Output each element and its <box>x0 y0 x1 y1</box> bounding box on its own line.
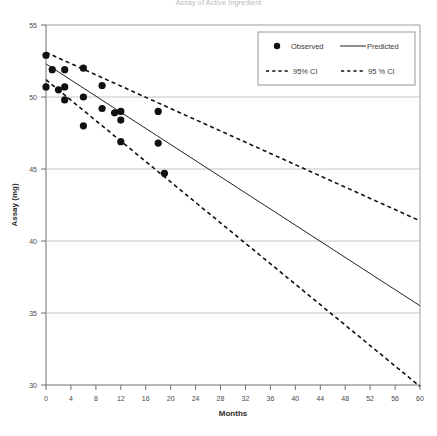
observed-data-point <box>99 105 106 112</box>
observed-data-point <box>61 66 68 73</box>
x-axis-ticks: 0 4 8 12 16 20 24 28 32 36 40 44 48 52 5… <box>44 385 424 402</box>
xtick-label-60: 60 <box>416 395 424 402</box>
legend-observed-dot-icon <box>274 43 280 49</box>
xtick-label-12: 12 <box>117 395 125 402</box>
observed-points-group <box>42 52 168 177</box>
legend-label-observed: Observed <box>291 42 324 51</box>
lower-ci-line <box>46 80 420 387</box>
observed-data-point <box>80 93 87 100</box>
ytick-label-30: 30 <box>29 382 37 389</box>
y-gridlines <box>46 97 420 313</box>
xtick-label-52: 52 <box>366 395 374 402</box>
observed-data-point <box>42 83 49 90</box>
xtick-label-28: 28 <box>217 395 225 402</box>
xtick-label-24: 24 <box>192 395 200 402</box>
xtick-label-4: 4 <box>69 395 73 402</box>
observed-data-point <box>61 96 68 103</box>
chart-legend: Observed Predicted 95% CI 95 % CI <box>258 32 415 85</box>
predicted-line <box>46 64 420 306</box>
xtick-label-8: 8 <box>94 395 98 402</box>
y-axis-title: Assay (mg) <box>10 183 19 226</box>
y-axis-ticks: 55 50 45 40 35 30 <box>29 22 46 389</box>
observed-data-point <box>80 122 87 129</box>
series-lines <box>46 52 420 386</box>
observed-data-point <box>49 66 56 73</box>
legend-label-ci-upper: 95% CI <box>293 67 318 76</box>
observed-data-point <box>111 109 118 116</box>
observed-data-point <box>161 170 168 177</box>
observed-data-point <box>117 116 124 123</box>
legend-box <box>258 32 415 85</box>
xtick-label-56: 56 <box>391 395 399 402</box>
observed-data-point <box>117 108 124 115</box>
observed-data-point <box>61 83 68 90</box>
legend-label-ci-lower: 95 % CI <box>368 67 395 76</box>
chart-title: Assay of Active Ingredient <box>0 0 437 10</box>
ytick-label-35: 35 <box>29 310 37 317</box>
observed-data-point <box>55 86 62 93</box>
assay-stability-scatter-chart: 55 50 45 40 35 30 Assay (mg) <box>0 0 437 436</box>
xtick-label-40: 40 <box>291 395 299 402</box>
chart-container: Assay of Active Ingredient 55 50 45 <box>0 0 437 436</box>
xtick-label-36: 36 <box>267 395 275 402</box>
observed-data-point <box>155 139 162 146</box>
ytick-label-55: 55 <box>29 22 37 29</box>
ytick-label-50: 50 <box>29 94 37 101</box>
x-axis-title: Months <box>219 409 248 418</box>
ytick-label-45: 45 <box>29 166 37 173</box>
xtick-label-48: 48 <box>341 395 349 402</box>
observed-data-point <box>155 108 162 115</box>
legend-label-predicted: Predicted <box>367 42 399 51</box>
ytick-label-40: 40 <box>29 238 37 245</box>
xtick-label-44: 44 <box>316 395 324 402</box>
observed-data-point <box>80 65 87 72</box>
xtick-label-20: 20 <box>167 395 175 402</box>
observed-data-point <box>117 138 124 145</box>
xtick-label-0: 0 <box>44 395 48 402</box>
xtick-label-16: 16 <box>142 395 150 402</box>
observed-data-point <box>42 52 49 59</box>
xtick-label-32: 32 <box>242 395 250 402</box>
observed-data-point <box>99 82 106 89</box>
